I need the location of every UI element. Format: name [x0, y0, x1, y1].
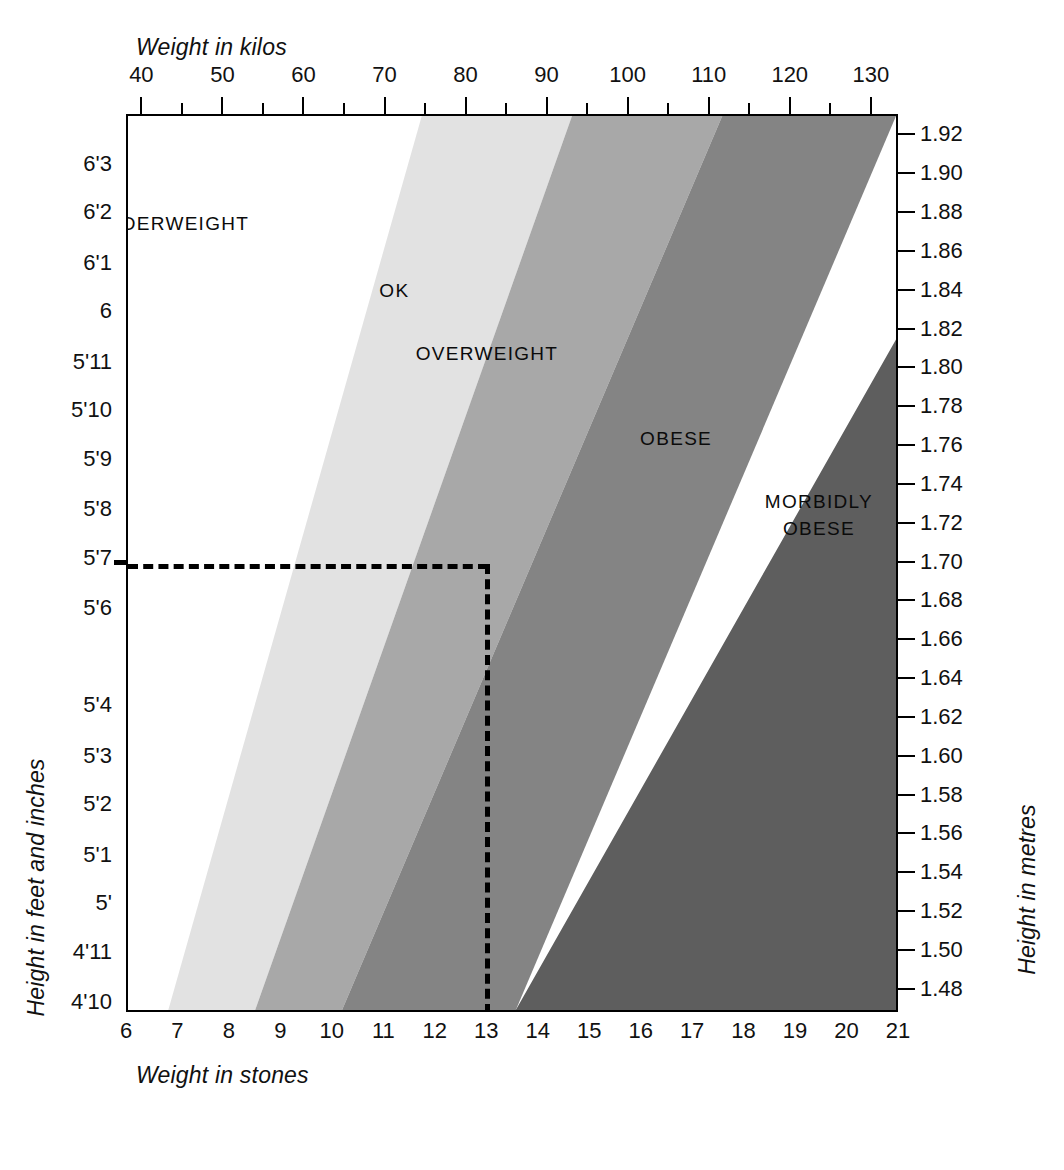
- bottom-axis-labels: 6789101112131415161718192021: [126, 1018, 898, 1046]
- right-axis-tick-1.68: [898, 599, 915, 601]
- right-axis-ticks: [898, 114, 916, 1012]
- right-axis-title: Height in metres: [1014, 775, 1041, 1005]
- right-axis-tick-1.86: [898, 250, 915, 252]
- top-axis-tick-45: [181, 103, 183, 114]
- height-reader-line: [128, 564, 488, 569]
- right-axis-tick-1.64: [898, 677, 915, 679]
- right-axis-label-1.88: 1.88: [920, 199, 963, 225]
- band-label-underweight: UNDERWEIGHT: [126, 213, 249, 235]
- right-axis-tick-1.50: [898, 949, 915, 951]
- top-axis-tick-80: [465, 97, 467, 114]
- top-axis-tick-60: [302, 97, 304, 114]
- bottom-axis-label-12: 12: [423, 1018, 447, 1044]
- top-axis-ticks: [126, 90, 898, 114]
- right-axis-label-1.50: 1.50: [920, 937, 963, 963]
- top-axis-tick-50: [221, 97, 223, 114]
- right-axis-label-1.58: 1.58: [920, 782, 963, 808]
- right-axis-tick-1.66: [898, 638, 915, 640]
- top-axis-labels: 405060708090100110120130: [126, 62, 898, 88]
- top-axis-label-100: 100: [609, 62, 646, 88]
- right-axis-label-1.90: 1.90: [920, 160, 963, 186]
- top-axis-label-80: 80: [453, 62, 477, 88]
- left-axis-label-6-3: 6'3: [83, 151, 112, 177]
- right-axis-label-1.82: 1.82: [920, 316, 963, 342]
- right-axis-label-1.78: 1.78: [920, 393, 963, 419]
- weight-reader-line: [485, 564, 490, 1012]
- right-axis-label-1.72: 1.72: [920, 510, 963, 536]
- right-axis-tick-1.54: [898, 871, 915, 873]
- right-axis-label-1.84: 1.84: [920, 277, 963, 303]
- left-axis-labels: 6'36'26'165'115'105'95'85'75'65'45'35'25…: [0, 114, 120, 1012]
- right-axis-tick-1.88: [898, 211, 915, 213]
- right-axis-label-1.60: 1.60: [920, 743, 963, 769]
- left-axis-label-5-: 5': [96, 890, 112, 916]
- band-label-overweight: OVERWEIGHT: [416, 343, 559, 365]
- bottom-axis-label-14: 14: [525, 1018, 549, 1044]
- top-axis-label-90: 90: [534, 62, 558, 88]
- right-axis-tick-1.74: [898, 483, 915, 485]
- left-axis-label-5-10: 5'10: [71, 397, 112, 423]
- bottom-axis-label-20: 20: [834, 1018, 858, 1044]
- left-axis-label-6-2: 6'2: [83, 199, 112, 225]
- top-axis-label-130: 130: [852, 62, 889, 88]
- right-axis-label-1.68: 1.68: [920, 587, 963, 613]
- band-label-obese: OBESE: [640, 428, 712, 450]
- right-axis-label-1.66: 1.66: [920, 626, 963, 652]
- right-axis-label-1.62: 1.62: [920, 704, 963, 730]
- right-axis-tick-1.84: [898, 289, 915, 291]
- right-axis-tick-1.52: [898, 910, 915, 912]
- bottom-axis-label-15: 15: [577, 1018, 601, 1044]
- right-axis-label-1.64: 1.64: [920, 665, 963, 691]
- right-axis-label-1.52: 1.52: [920, 898, 963, 924]
- bottom-axis-label-17: 17: [680, 1018, 704, 1044]
- top-axis-label-40: 40: [129, 62, 153, 88]
- bottom-axis-label-7: 7: [171, 1018, 183, 1044]
- top-axis-tick-100: [627, 97, 629, 114]
- top-axis-label-110: 110: [691, 62, 726, 88]
- right-axis-tick-1.48: [898, 988, 915, 990]
- top-axis-title: Weight in kilos: [136, 34, 287, 61]
- top-axis-tick-75: [424, 103, 426, 114]
- top-axis-tick-65: [343, 103, 345, 114]
- bottom-axis-label-19: 19: [783, 1018, 807, 1044]
- right-axis-tick-1.92: [898, 133, 915, 135]
- right-axis-label-1.48: 1.48: [920, 976, 963, 1002]
- left-axis-label-5-8: 5'8: [83, 496, 112, 522]
- left-axis-label-5-7: 5'7: [83, 545, 112, 571]
- top-axis-tick-125: [829, 103, 831, 114]
- bottom-axis-label-21: 21: [886, 1018, 910, 1044]
- left-axis-label-4-10: 4'10: [71, 989, 112, 1015]
- right-axis-label-1.74: 1.74: [920, 471, 963, 497]
- top-axis-label-70: 70: [372, 62, 396, 88]
- top-axis-tick-90: [546, 97, 548, 114]
- top-axis-tick-130: [870, 97, 872, 114]
- right-axis-label-1.70: 1.70: [920, 549, 963, 575]
- right-axis-label-1.92: 1.92: [920, 121, 963, 147]
- bottom-axis-title: Weight in stones: [136, 1062, 309, 1089]
- right-axis-tick-1.62: [898, 716, 915, 718]
- right-axis-tick-1.72: [898, 522, 915, 524]
- top-axis-label-50: 50: [210, 62, 234, 88]
- left-axis-label-5-1: 5'1: [83, 842, 112, 868]
- left-axis-label-5-3: 5'3: [83, 743, 112, 769]
- plot-area: UNDERWEIGHTOKOVERWEIGHTOBESEMORBIDLYOBES…: [126, 114, 898, 1012]
- right-axis-label-1.76: 1.76: [920, 432, 963, 458]
- band-label-morbidly-obese: MORBIDLYOBESE: [765, 488, 873, 543]
- bottom-axis-label-8: 8: [223, 1018, 235, 1044]
- right-axis-tick-1.76: [898, 444, 915, 446]
- top-axis-label-60: 60: [291, 62, 315, 88]
- right-axis-tick-1.70: [898, 561, 915, 563]
- bottom-axis-label-16: 16: [628, 1018, 652, 1044]
- left-axis-label-5-2: 5'2: [83, 791, 112, 817]
- bottom-axis-label-18: 18: [731, 1018, 755, 1044]
- top-axis-tick-95: [586, 103, 588, 114]
- band-label-ok: OK: [379, 280, 409, 302]
- bottom-axis-label-9: 9: [274, 1018, 286, 1044]
- right-axis-tick-1.80: [898, 366, 915, 368]
- top-axis-tick-120: [789, 97, 791, 114]
- top-axis-tick-110: [708, 97, 710, 114]
- left-axis-label-5-4: 5'4: [83, 692, 112, 718]
- left-axis-label-5-6: 5'6: [83, 595, 112, 621]
- top-axis-tick-40: [140, 97, 142, 114]
- left-axis-label-5-11: 5'11: [73, 349, 112, 375]
